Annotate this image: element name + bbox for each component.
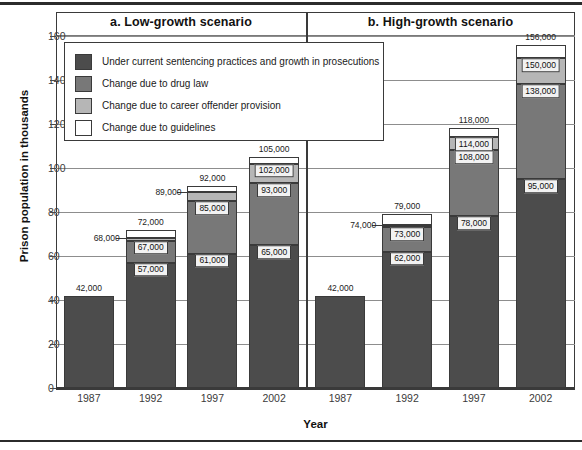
bar-segment-under	[126, 263, 176, 388]
bar-segment-change	[516, 84, 566, 179]
bar-segment-under	[382, 252, 432, 388]
bar-segment-side-label: 89,000	[155, 187, 183, 197]
bar-segment-change	[126, 230, 176, 239]
bar-segment-side-label: 68,000	[94, 233, 122, 243]
legend-label: Change due to drug law	[102, 78, 208, 89]
bar-segment-value-chip: 73,000	[390, 228, 424, 242]
bar-segment-value-chip: 150,000	[521, 58, 560, 72]
bar-total-label: 42,000	[76, 283, 102, 295]
bar-segment-value-chip: 61,000	[195, 254, 229, 268]
bar-segment-change	[516, 45, 566, 58]
bar-segment-value-chip: 102,000	[255, 164, 294, 178]
x-axis-label: Year	[56, 418, 575, 430]
x-axis-tick-label-1992: 1992	[139, 392, 162, 404]
bar-segment-change	[187, 186, 237, 193]
x-axis-tick-label-1997: 1997	[201, 392, 224, 404]
x-axis-tick-label-1987: 1987	[329, 392, 352, 404]
bar-segment-value-chip: 93,000	[257, 184, 291, 198]
axis-baseline	[56, 388, 575, 390]
figure-top-rule	[0, 2, 582, 5]
bar-total-label: 156,000	[525, 32, 556, 44]
bar-segment-value-chip: 65,000	[257, 245, 291, 259]
bar-segment-under	[64, 296, 114, 388]
bar-segment-under	[449, 216, 499, 388]
bar-total-label: 42,000	[327, 283, 353, 295]
x-axis-tick-label-2002: 2002	[529, 392, 552, 404]
bar-segment-change	[382, 214, 432, 225]
y-axis-label: Prison population in thousands	[18, 56, 30, 296]
bar-segment-value-chip: 114,000	[455, 137, 493, 151]
bar-segment-value-chip: 67,000	[134, 241, 168, 255]
x-axis-tick-label-1987: 1987	[77, 392, 100, 404]
legend-item-guidelines: Change due to guidelines	[75, 117, 373, 138]
bar-segment-change	[449, 128, 499, 137]
x-axis-tick-label-2002: 2002	[262, 392, 285, 404]
legend-label: Under current sentencing practices and g…	[102, 56, 379, 67]
bar-b-1997[interactable]	[449, 12, 499, 388]
bar-total-label: 118,000	[459, 115, 489, 127]
bar-segment-value-chip: 57,000	[134, 263, 168, 277]
bar-b-1992[interactable]	[382, 12, 432, 388]
bar-segment-under	[516, 179, 566, 388]
bar-total-label: 105,000	[259, 144, 290, 156]
legend-swatch-base	[75, 54, 92, 70]
legend-swatch-guidelines	[75, 120, 92, 136]
bar-segment-change	[249, 157, 299, 164]
x-axis-tick-label-1997: 1997	[462, 392, 485, 404]
bar-total-label: 72,000	[138, 217, 164, 229]
bar-segment-under	[249, 245, 299, 388]
bar-total-label: 79,000	[394, 201, 420, 213]
legend-label: Change due to career offender provision	[102, 100, 281, 111]
bar-segment-under	[187, 254, 237, 388]
legend-label: Change due to guidelines	[102, 122, 215, 133]
legend-item-base: Under current sentencing practices and g…	[75, 51, 373, 72]
figure-bottom-rule	[0, 440, 582, 442]
legend-item-drug_law: Change due to drug law	[75, 73, 373, 94]
figure-root: Prison population in thousands Year a. L…	[0, 0, 582, 450]
bar-segment-value-chip: 138,000	[521, 85, 560, 99]
legend-swatch-career_offender	[75, 98, 92, 114]
x-axis-tick-label-1992: 1992	[395, 392, 418, 404]
bar-segment-side-label: 74,000	[350, 220, 378, 230]
bar-segment-value-chip: 78,000	[457, 217, 491, 231]
bar-segment-value-chip: 85,000	[195, 201, 229, 215]
bar-segment-value-chip: 95,000	[524, 179, 558, 193]
bar-segment-value-chip: 62,000	[390, 252, 424, 266]
bar-segment-value-chip: 108,000	[455, 151, 494, 165]
legend: Under current sentencing practices and g…	[64, 42, 384, 141]
bar-segment-change	[187, 192, 237, 201]
legend-swatch-drug_law	[75, 76, 92, 92]
bar-segment-under	[315, 296, 365, 388]
legend-item-career_offender: Change due to career offender provision	[75, 95, 373, 116]
bar-total-label: 92,000	[199, 173, 225, 185]
